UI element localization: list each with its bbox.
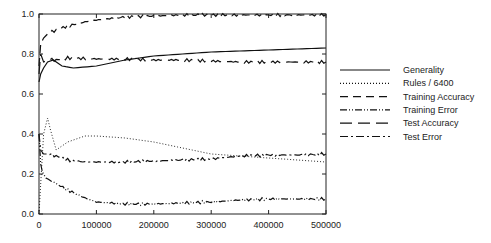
series-training-error [39,134,326,206]
series-layer [39,13,326,214]
y-axis: 0.00.20.40.60.81.0 [21,9,326,219]
x-tick-label: 400000 [254,220,284,230]
x-axis: 0100000200000300000400000500000 [36,14,341,230]
y-tick-label: 0.6 [21,89,34,99]
y-tick-label: 0.8 [21,49,34,59]
x-tick-label: 300000 [196,220,226,230]
legend-label: Test Accuracy [403,118,459,128]
x-tick-label: 0 [36,220,41,230]
legend-label: Test Error [403,132,442,142]
x-tick-label: 200000 [139,220,169,230]
y-tick-label: 0.0 [21,209,34,219]
legend-label: Rules / 6400 [403,78,454,88]
series-generality [39,48,326,82]
legend-label: Training Error [403,105,458,115]
legend: GeneralityRules / 6400Training AccuracyT… [340,65,475,142]
x-tick-label: 500000 [311,220,341,230]
y-tick-label: 0.4 [21,129,34,139]
plot-frame [39,14,326,214]
legend-label: Generality [403,65,445,75]
y-tick-label: 1.0 [21,9,34,19]
series-test-error [39,134,326,163]
x-tick-label: 100000 [81,220,111,230]
series-test-accuracy [39,54,326,74]
series-rules-6400 [39,118,326,214]
legend-label: Training Accuracy [403,92,475,102]
y-tick-label: 0.2 [21,169,34,179]
line-chart: 0.00.20.40.60.81.0 010000020000030000040… [0,0,491,243]
